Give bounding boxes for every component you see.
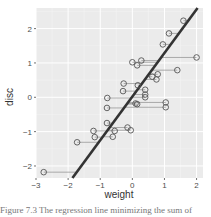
x-tick-label: 2: [194, 181, 199, 190]
y-axis-label: disc: [4, 88, 15, 106]
x-tick-label: −2: [64, 181, 74, 190]
figure-caption: Figure 7.3 The regression line minimizin…: [0, 205, 211, 215]
x-tick-label: 1: [162, 181, 167, 190]
x-axis-label: weight: [104, 189, 134, 200]
y-tick-label: 0: [28, 93, 33, 102]
scatter-chart: −3−2−1012 −2−1012 weight disc: [0, 0, 211, 205]
y-axis-ticks: −2−1012: [23, 25, 36, 171]
x-tick-label: −3: [31, 181, 41, 190]
y-tick-label: −2: [23, 162, 33, 171]
y-tick-label: −1: [23, 128, 33, 137]
y-tick-label: 1: [28, 59, 33, 68]
y-tick-label: 2: [28, 25, 33, 34]
